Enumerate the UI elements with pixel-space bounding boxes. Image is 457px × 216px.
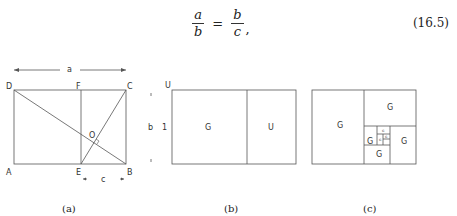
label-g-7: G xyxy=(379,138,382,142)
golden-rectangle-b xyxy=(172,90,296,164)
diagonal-ec xyxy=(81,90,126,164)
label-g: G xyxy=(205,123,211,132)
label-g-5: G xyxy=(376,150,382,159)
diagonal-db xyxy=(14,90,126,164)
dim-label-b: b xyxy=(148,123,153,132)
figure-canvas: D F C A E B O a b c (a) U 1 G U (b) G G … xyxy=(0,0,457,216)
dim-label-c: c xyxy=(101,175,105,184)
label-f: F xyxy=(76,82,81,91)
label-g-8: G xyxy=(385,135,388,139)
arrow-right-icon xyxy=(121,178,124,181)
arrow-left-icon xyxy=(83,178,86,181)
label-g-3: G xyxy=(401,137,407,146)
arrow-left-icon xyxy=(14,68,19,72)
label-d: D xyxy=(6,82,12,91)
arrow-right-icon xyxy=(121,68,126,72)
label-a: A xyxy=(6,168,12,177)
label-c: C xyxy=(127,82,133,91)
label-g-4: G xyxy=(367,137,373,146)
dim-label-a: a xyxy=(67,65,72,74)
label-g-2: G xyxy=(387,103,393,112)
caption-b: (b) xyxy=(224,203,238,214)
label-one: 1 xyxy=(162,123,167,132)
label-g-1: G xyxy=(337,121,343,130)
label-u: U xyxy=(268,123,274,132)
caption-c: (c) xyxy=(363,203,377,214)
label-b: B xyxy=(127,168,133,177)
caption-a: (a) xyxy=(62,203,76,214)
label-o: O xyxy=(89,131,95,140)
right-angle-marker xyxy=(96,139,99,144)
label-g-6: G xyxy=(382,129,385,133)
label-e: E xyxy=(76,168,81,177)
label-u-corner: U xyxy=(165,81,171,90)
